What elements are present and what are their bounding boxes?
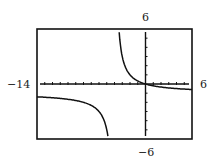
curve-right-branch — [119, 32, 192, 89]
curve-left-branch — [37, 97, 108, 136]
graph-plot — [0, 0, 213, 166]
